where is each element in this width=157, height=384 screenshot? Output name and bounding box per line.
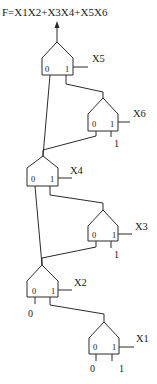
port-0-label: 0 — [92, 119, 96, 129]
select-label: X6 — [133, 108, 146, 119]
port-0-label: 0 — [45, 64, 49, 74]
mux-tree-diagram: F=X1X2+X3X4+X5X6 0 1 X5 — [0, 0, 157, 384]
output-arrow — [55, 21, 60, 42]
function-title: F=X1X2+X3X4+X5X6 — [2, 6, 108, 18]
port-1-label: 1 — [112, 342, 116, 352]
port-0-label: 0 — [92, 230, 96, 240]
mux-x2: 0 1 X2 0 — [27, 265, 87, 319]
mux-x1: 0 1 X1 0 1 — [89, 322, 149, 374]
const-input-label: 1 — [119, 363, 124, 374]
port-1-label: 1 — [50, 174, 54, 184]
port-1-label: 1 — [112, 230, 116, 240]
port-1-label: 1 — [65, 64, 69, 74]
const-input-label: 1 — [114, 249, 119, 260]
select-label: X4 — [70, 165, 84, 176]
select-label: X3 — [135, 221, 148, 232]
port-0-label: 0 — [31, 174, 35, 184]
mux-x5: 0 1 X5 — [42, 42, 105, 75]
port-0-label: 0 — [32, 286, 36, 296]
mux-x3: 0 1 X3 1 — [88, 210, 148, 260]
const-input-label: 1 — [114, 138, 119, 149]
arrowhead-icon — [55, 21, 60, 28]
const-input-label: 0 — [28, 308, 33, 319]
port-1-label: 1 — [51, 286, 55, 296]
select-label: X2 — [74, 277, 87, 288]
port-0-label: 0 — [93, 342, 97, 352]
mux-x4: 0 1 X4 — [27, 156, 84, 186]
select-label: X5 — [92, 53, 105, 64]
select-label: X1 — [136, 333, 149, 344]
const-input-label: 0 — [90, 363, 95, 374]
mux-x6: 0 1 X6 1 — [88, 98, 146, 149]
port-1-label: 1 — [110, 119, 114, 129]
